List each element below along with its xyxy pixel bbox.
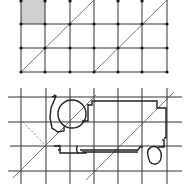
grid-diagram bbox=[0, 0, 192, 194]
plan-outline bbox=[50, 95, 166, 164]
dashed-diagonal bbox=[23, 122, 46, 146]
shaded-cell bbox=[21, 0, 45, 24]
top-grid bbox=[19, 0, 168, 74]
bottom-grid-lines bbox=[8, 88, 182, 184]
circle-element bbox=[58, 100, 86, 128]
bottom-grid bbox=[8, 88, 182, 184]
